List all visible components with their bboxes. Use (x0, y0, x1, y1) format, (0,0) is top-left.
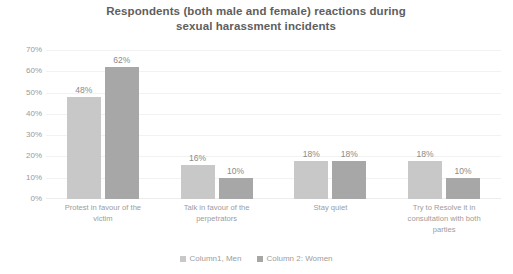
x-axis-label-2-line-1: Talk in favour of the (184, 203, 250, 212)
bar-men-3[interactable] (294, 161, 328, 199)
bar-wrap-women-4: 10% (446, 50, 480, 199)
bar-group-protest-in-favour-of-the-victim: 48% 62% (46, 50, 160, 199)
legend-swatch-icon-men (180, 256, 186, 262)
bar-value-label-men-4: 18% (417, 150, 434, 159)
bar-wrap-women-3: 18% (332, 50, 366, 199)
legend-label-men: Column1, Men (189, 254, 241, 263)
y-axis-tick-50: 50% (0, 89, 42, 97)
x-axis-label-3: Stay quiet (274, 202, 388, 244)
bar-wrap-men-4: 18% (408, 50, 442, 199)
y-axis-tick-20: 20% (0, 152, 42, 160)
bar-groups: 48% 62% 16% 10% (46, 50, 501, 199)
x-axis-label-1-line-2: victim (93, 214, 112, 223)
bar-wrap-women-1: 62% (105, 50, 139, 199)
bar-men-1[interactable] (67, 97, 101, 199)
x-axis-label-4-line-3: parties (433, 225, 456, 234)
x-axis-label-3-line-1: Stay quiet (313, 203, 347, 212)
bar-value-label-women-3: 18% (341, 150, 358, 159)
y-axis-tick-40: 40% (0, 110, 42, 118)
chart-title: Respondents (both male and female) react… (46, 4, 466, 34)
bar-value-label-women-2: 10% (227, 167, 244, 176)
bar-women-2[interactable] (219, 178, 253, 199)
legend-swatch-icon-women (257, 256, 263, 262)
bar-value-label-women-4: 10% (455, 167, 472, 176)
y-axis-tick-0: 0% (0, 195, 42, 203)
y-axis-tick-60: 60% (0, 67, 42, 75)
legend-item-men[interactable]: Column1, Men (180, 254, 241, 263)
bar-value-label-women-1: 62% (113, 56, 130, 65)
bar-women-3[interactable] (332, 161, 366, 199)
bar-value-label-men-2: 16% (189, 154, 206, 163)
y-axis: 70% 60% 50% 40% 30% 20% 10% 0% (0, 50, 42, 199)
bar-wrap-men-3: 18% (294, 50, 328, 199)
x-axis-label-4-line-2: consultation with both (408, 214, 481, 223)
bar-group-stay-quiet: 18% 18% (274, 50, 388, 199)
chart-title-line-2: sexual harassment incidents (46, 19, 466, 34)
x-axis: Protest in favour of the victim Talk in … (46, 202, 501, 244)
bar-wrap-men-1: 48% (67, 50, 101, 199)
legend-item-women[interactable]: Column 2: Women (257, 254, 332, 263)
bar-women-4[interactable] (446, 178, 480, 199)
bar-group-try-to-resolve-it-in-consultation-with-both-parties: 18% 10% (387, 50, 501, 199)
x-axis-label-1: Protest in favour of the victim (46, 202, 160, 244)
x-axis-label-2-line-2: perpetrators (196, 214, 237, 223)
bar-wrap-men-2: 16% (181, 50, 215, 199)
x-axis-label-4: Try to Resolve it in consultation with b… (387, 202, 501, 244)
x-axis-label-2: Talk in favour of the perpetrators (160, 202, 274, 244)
y-axis-tick-30: 30% (0, 131, 42, 139)
chart-title-line-1: Respondents (both male and female) react… (46, 4, 466, 19)
y-axis-tick-70: 70% (0, 46, 42, 54)
x-axis-label-4-line-1: Try to Resolve it in (413, 203, 476, 212)
bar-group-talk-in-favour-of-the-perpetrators: 16% 10% (160, 50, 274, 199)
bar-chart-figure: Respondents (both male and female) react… (0, 0, 513, 274)
bar-wrap-women-2: 10% (219, 50, 253, 199)
plot-area: 48% 62% 16% 10% (46, 50, 501, 199)
x-axis-label-1-line-1: Protest in favour of the (65, 203, 141, 212)
chart-legend: Column1, Men Column 2: Women (0, 254, 513, 263)
bar-value-label-men-3: 18% (303, 150, 320, 159)
bar-men-2[interactable] (181, 165, 215, 199)
bar-value-label-men-1: 48% (75, 86, 92, 95)
bar-men-4[interactable] (408, 161, 442, 199)
y-axis-tick-10: 10% (0, 174, 42, 182)
legend-label-women: Column 2: Women (266, 254, 332, 263)
bar-women-1[interactable] (105, 67, 139, 199)
